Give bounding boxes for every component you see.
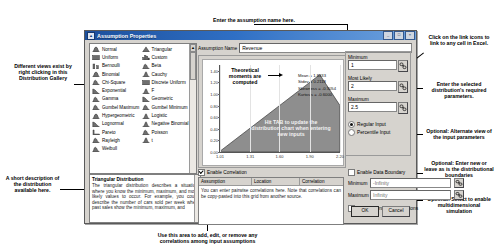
gallery-item-pareto[interactable]: Pareto — [91, 128, 140, 136]
gallery-item-discrete-uniform[interactable]: Discrete Uniform — [141, 78, 190, 86]
gallery-item-bernoulli[interactable]: Bernoulli — [91, 62, 140, 70]
assumption-icon: ▲ — [87, 32, 95, 40]
annotation-gallery: Different views exist by right clicking … — [12, 63, 74, 82]
gallery-column-left: NormalUniformBernoulliBinomialChi-Square… — [90, 44, 140, 173]
correlation-table-body: You can enter pairwise correlations here… — [199, 186, 343, 201]
bell-distribution-icon — [92, 46, 100, 52]
skew-distribution-icon — [142, 104, 150, 110]
gallery-item-label: Beta — [152, 63, 161, 68]
maximum-input[interactable]: 2.5 — [348, 102, 397, 112]
chart-y-tick-label: 1.20 — [210, 80, 218, 85]
percentile-input-radio[interactable] — [348, 129, 355, 136]
chart-gridline — [220, 65, 221, 152]
twobar-distribution-icon — [92, 63, 100, 69]
percentile-input-label: Percentile Input — [357, 130, 390, 135]
boundary-maximum-label: Maximum — [348, 193, 368, 198]
gallery-item-label: Weibull — [102, 146, 117, 151]
distribution-gallery[interactable]: NormalUniformBernoulliBinomialChi-Square… — [89, 43, 197, 174]
gallery-item-t[interactable]: t — [141, 136, 190, 144]
annotation-parameters: Enter the selected distribution's requir… — [424, 81, 494, 100]
gallery-item-custom[interactable]: Custom — [141, 53, 190, 61]
gallery-item-uniform[interactable]: Uniform — [91, 53, 140, 61]
gallery-item-weibull[interactable]: Weibull — [91, 145, 140, 153]
gallery-scrollbar[interactable]: ▲ — [189, 44, 196, 173]
lshape-distribution-icon — [92, 129, 100, 135]
dialog-titlebar[interactable]: ▲ Assumption Properties _ □ × — [85, 31, 416, 40]
scroll-up-icon[interactable]: ▲ — [190, 44, 196, 52]
gallery-item-binomial[interactable]: Binomial — [91, 70, 140, 78]
chart-y-tick-label: 0.60 — [210, 115, 218, 120]
chart-x-tick-label: 1.31 — [246, 154, 254, 159]
boundary-minimum-input[interactable]: -Infinity — [370, 178, 451, 188]
gallery-item-logistic[interactable]: Logistic — [141, 111, 190, 119]
gallery-item-hypergeometric[interactable]: Hypergeometric — [91, 111, 140, 119]
chart-y-tick-label: 0.20 — [210, 138, 218, 143]
correlation-group: Enable Correlation Assumption Location C… — [198, 169, 344, 225]
correlation-table[interactable]: Assumption Location Correlation You can … — [198, 177, 344, 225]
percentile-input-option[interactable]: Percentile Input — [348, 129, 408, 136]
gallery-item-gumbel-maximum[interactable]: Gumbel Maximum — [91, 103, 140, 111]
gallery-item-label: Uniform — [102, 55, 118, 60]
spike-distribution-icon — [142, 71, 150, 77]
boundary-minimum-row: Minimum -Infinity — [348, 178, 464, 188]
gallery-item-label: Negative Binomial — [152, 121, 189, 126]
distribution-chart-group: Mean = 1.8333Stdev = 0.2118Skewness = -0… — [198, 55, 346, 168]
chart-y-tick-label: 0.80 — [210, 103, 218, 108]
gallery-item-lognormal[interactable]: Lognormal — [91, 120, 140, 128]
gallery-item-triangular[interactable]: Triangular — [141, 45, 190, 53]
link-icon[interactable] — [398, 102, 408, 114]
regular-input-option[interactable]: Regular Input — [348, 121, 408, 128]
main-pane: Assumption Name Revenue Mean = 1.8333Std… — [198, 43, 412, 219]
ok-button[interactable]: OK — [351, 206, 379, 217]
gallery-item-label: Binomial — [102, 72, 120, 77]
regular-input-radio[interactable] — [348, 121, 355, 128]
boundary-maximum-input[interactable]: Infinity — [370, 190, 451, 200]
enable-data-boundary-row[interactable]: Enable Data Boundary — [348, 169, 464, 176]
decay-distribution-icon — [142, 96, 150, 102]
enable-data-boundary-checkbox[interactable] — [348, 169, 355, 176]
link-icon[interactable] — [398, 81, 408, 93]
gallery-item-negative-binomial[interactable]: Negative Binomial — [141, 120, 190, 128]
most-likely-input[interactable]: 2 — [348, 81, 397, 91]
gallery-item-beta[interactable]: Beta — [141, 62, 190, 70]
chart-x-tick-label: 1.01 — [216, 154, 224, 159]
gallery-item-poisson[interactable]: Poisson — [141, 128, 190, 136]
link-icon[interactable] — [454, 178, 464, 188]
gallery-item-gamma[interactable]: Gamma — [91, 95, 140, 103]
skew-distribution-icon — [92, 79, 100, 85]
close-button[interactable]: × — [405, 31, 415, 40]
gallery-item-cauchy[interactable]: Cauchy — [141, 70, 190, 78]
annotation-description: A short description of the distribution … — [5, 175, 60, 194]
chart-x-tick-label: 1.60 — [276, 154, 284, 159]
column-assumption: Assumption — [199, 178, 252, 185]
gallery-item-exponential[interactable]: Exponential — [91, 86, 140, 94]
gallery-item-f[interactable]: F — [141, 86, 190, 94]
gallery-item-geometric[interactable]: Geometric — [141, 95, 190, 103]
boundary-maximum-row: Maximum Infinity — [348, 190, 464, 200]
parameters-panel: Minimum 1 Most Likely 2 — [348, 55, 408, 136]
gallery-item-chi-square[interactable]: Chi-Square — [91, 78, 140, 86]
enable-correlation-checkbox[interactable] — [198, 169, 205, 176]
gallery-scroll-thumb[interactable] — [190, 52, 196, 80]
annotation-alternate-view: Optional: Alternate view of the input pa… — [424, 128, 494, 140]
gallery-item-normal[interactable]: Normal — [91, 45, 140, 53]
regular-input-label: Regular Input — [357, 122, 386, 127]
maximize-button[interactable]: □ — [394, 31, 404, 40]
skew-distribution-icon — [142, 129, 150, 135]
gallery-item-label: F — [152, 88, 155, 93]
chart-x-tick-label: 2.20 — [336, 154, 344, 159]
link-icon[interactable] — [454, 190, 464, 200]
cancel-button[interactable]: Cancel — [382, 206, 410, 217]
link-icon[interactable] — [398, 60, 408, 72]
tri-distribution-icon — [142, 46, 150, 52]
gallery-item-label: Bernoulli — [102, 63, 120, 68]
minimum-input[interactable]: 1 — [348, 60, 397, 70]
description-body: The triangular distribution describes a … — [92, 183, 198, 211]
gallery-item-label: Triangular — [152, 47, 173, 52]
minimize-button[interactable]: _ — [383, 31, 393, 40]
gallery-item-gumbel-minimum[interactable]: Gumbel Minimum — [141, 103, 190, 111]
gallery-item-rayleigh[interactable]: Rayleigh — [91, 136, 140, 144]
gallery-item-label: Hypergeometric — [102, 113, 134, 118]
skew-distribution-icon — [142, 63, 150, 69]
enable-correlation-row[interactable]: Enable Correlation — [198, 169, 344, 176]
